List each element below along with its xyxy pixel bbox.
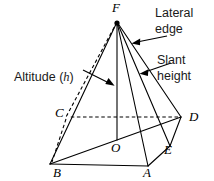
slant-height-label-line2: height bbox=[157, 69, 192, 83]
diagram-canvas: F C D E A B O Lateral edge Slant height bbox=[0, 0, 214, 181]
callout-slant-height: Slant height bbox=[140, 53, 192, 83]
lateral-edge-label-line2: edge bbox=[155, 22, 183, 36]
vertex-label-E: E bbox=[163, 142, 172, 157]
lateral-edge-arrow-head bbox=[132, 38, 141, 45]
apex-point-marker bbox=[114, 20, 119, 25]
base-edge-B-to-A bbox=[50, 164, 148, 166]
altitude-arrow-head bbox=[105, 78, 114, 86]
vertex-label-O: O bbox=[111, 140, 121, 155]
pyramid-diagram: F C D E A B O Lateral edge Slant height bbox=[0, 0, 214, 181]
altitude-label-suffix: ) bbox=[70, 70, 74, 84]
edge-apex-to-B bbox=[50, 22, 117, 164]
callout-altitude: Altitude (h) bbox=[14, 70, 115, 86]
vertex-label-C: C bbox=[55, 105, 64, 120]
lateral-edge-leader-line bbox=[137, 36, 167, 42]
vertex-label-F: F bbox=[111, 0, 121, 15]
lateral-edge-label-line1: Lateral bbox=[155, 6, 193, 20]
callout-lateral-edge: Lateral edge bbox=[132, 6, 194, 45]
altitude-label: Altitude (h) bbox=[14, 70, 74, 84]
slant-height-label-line1: Slant bbox=[157, 53, 186, 67]
altitude-leader-line bbox=[83, 70, 109, 83]
base-edge-C-to-B bbox=[52, 119, 66, 162]
vertex-label-A: A bbox=[142, 165, 151, 180]
vertex-label-B: B bbox=[53, 165, 61, 180]
vertex-label-D: D bbox=[188, 109, 199, 124]
slant-height-arrow-head bbox=[140, 69, 149, 76]
altitude-label-prefix: Altitude ( bbox=[14, 70, 64, 84]
